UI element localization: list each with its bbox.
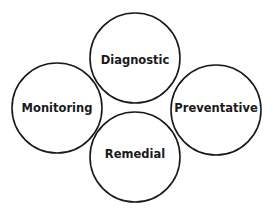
- node-preventative: Preventative: [171, 65, 261, 155]
- node-monitoring: Monitoring: [12, 63, 102, 153]
- diagnostic-label: Diagnostic: [101, 53, 170, 67]
- monitoring-label: Monitoring: [22, 101, 93, 115]
- preventative-label: Preventative: [174, 101, 258, 115]
- node-diagnostic: Diagnostic: [90, 13, 180, 103]
- remedial-label: Remedial: [105, 147, 165, 161]
- diagram-canvas: Diagnostic Monitoring Preventative Remed…: [0, 0, 273, 214]
- node-remedial: Remedial: [90, 112, 180, 202]
